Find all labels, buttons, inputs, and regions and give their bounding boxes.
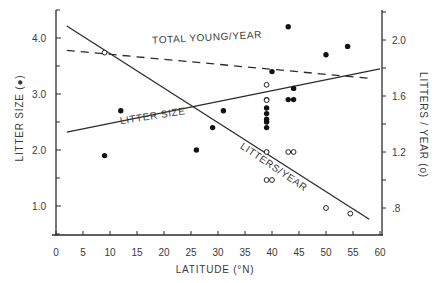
- x-tick-label: 45: [293, 247, 305, 258]
- litter-size-point: [291, 86, 296, 91]
- x-tick-label: 55: [347, 247, 359, 258]
- litter-size-point: [345, 44, 350, 49]
- x-tick-label: 30: [212, 247, 224, 258]
- litter-size-point: [286, 97, 291, 102]
- litters-per-year-point: [286, 150, 291, 155]
- y-right-axis-title: LITTERS / YEAR (o): [418, 72, 429, 178]
- litter-size-point: [118, 108, 123, 113]
- line-labels: TOTAL YOUNG/YEARLITTER SIZELITTERS/YEAR: [119, 29, 309, 193]
- litter-size-point: [264, 111, 269, 116]
- litter-size-point: [102, 153, 107, 158]
- x-axis-title: LATITUDE (°N): [176, 264, 255, 275]
- line-label: LITTER SIZE: [119, 105, 186, 126]
- x-tick-label: 10: [104, 247, 116, 258]
- fit-line-litter-size: [67, 69, 380, 132]
- axes: 0510152025303540455055601.02.03.04.0.81.…: [14, 10, 429, 275]
- litter-size-point: [264, 119, 269, 124]
- line-label: LITTERS/YEAR: [238, 140, 309, 193]
- litters-per-year-point: [264, 98, 269, 103]
- x-tick-label: 0: [53, 247, 59, 258]
- x-tick-label: 25: [185, 247, 197, 258]
- litters-per-year-point: [102, 50, 107, 55]
- litters-per-year-point: [264, 178, 269, 183]
- litter-size-point: [194, 147, 199, 152]
- y-tick-label: 2.0: [32, 145, 46, 156]
- y-axis-title: LITTER SIZE (●): [14, 75, 25, 162]
- y-right-tick-label: 1.6: [392, 91, 406, 102]
- litter-size-point: [291, 97, 296, 102]
- y-tick-label: 4.0: [32, 33, 46, 44]
- y-right-tick-label: .8: [392, 203, 401, 214]
- litters-per-year-point: [264, 82, 269, 87]
- x-tick-label: 15: [131, 247, 143, 258]
- x-tick-label: 20: [158, 247, 170, 258]
- chart-canvas: 0510152025303540455055601.02.03.04.0.81.…: [0, 0, 435, 283]
- litter-size-point: [269, 69, 274, 74]
- litter-size-point: [210, 125, 215, 130]
- litters-per-year-point: [324, 206, 329, 211]
- y-tick-label: 1.0: [32, 201, 46, 212]
- litter-size-point: [286, 24, 291, 29]
- y-tick-label: 3.0: [32, 89, 46, 100]
- x-tick-label: 40: [266, 247, 278, 258]
- x-tick-label: 50: [320, 247, 332, 258]
- litters-per-year-point: [291, 150, 296, 155]
- y-right-tick-label: 2.0: [392, 35, 406, 46]
- litter-size-point: [323, 52, 328, 57]
- litter-size-point: [264, 125, 269, 130]
- litter-size-point: [264, 105, 269, 110]
- fit-lines: [67, 26, 380, 219]
- x-tick-label: 35: [239, 247, 251, 258]
- litters-per-year-point: [270, 178, 275, 183]
- x-tick-label: 60: [374, 247, 386, 258]
- litters-per-year-point: [348, 211, 353, 216]
- line-label: TOTAL YOUNG/YEAR: [152, 29, 262, 46]
- y-right-tick-label: 1.2: [392, 147, 406, 158]
- x-tick-label: 5: [80, 247, 86, 258]
- litter-size-point: [221, 108, 226, 113]
